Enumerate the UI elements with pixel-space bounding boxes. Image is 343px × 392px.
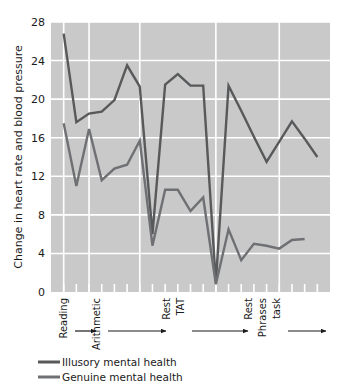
legend-label: Illusory mental health <box>62 356 177 368</box>
y-axis-title: Change in heart rate and blood pressure <box>12 45 25 269</box>
y-tick-label: 20 <box>31 93 45 106</box>
x-category-label: task <box>271 298 282 319</box>
y-tick-label: 0 <box>38 286 45 299</box>
line-chart: 0481216202428 Change in heart rate and b… <box>0 0 343 392</box>
x-category-label: Phrases <box>257 298 268 337</box>
y-tick-label: 28 <box>31 16 45 29</box>
x-category-label: Arithmetic <box>91 298 102 350</box>
x-category-label: Rest <box>243 298 254 320</box>
legend-label: Genuine mental health <box>62 371 183 383</box>
x-category-label: Reading <box>58 298 69 339</box>
y-axis-tick-labels: 0481216202428 <box>31 16 45 299</box>
y-tick-label: 4 <box>38 247 45 260</box>
chart-figure: 0481216202428 Change in heart rate and b… <box>0 0 343 392</box>
y-tick-label: 24 <box>31 55 45 68</box>
x-axis-ticks <box>64 284 318 292</box>
y-tick-label: 12 <box>31 170 45 183</box>
x-category-label: Rest <box>161 298 172 320</box>
y-tick-label: 16 <box>31 132 45 145</box>
x-category-label: TAT <box>175 297 186 316</box>
x-axis-category-labels: ReadingArithmeticRestTATRestPhrasestask <box>58 297 282 350</box>
y-tick-label: 8 <box>38 209 45 222</box>
plot-background <box>51 22 330 292</box>
chart-legend: Illusory mental healthGenuine mental hea… <box>38 356 183 383</box>
